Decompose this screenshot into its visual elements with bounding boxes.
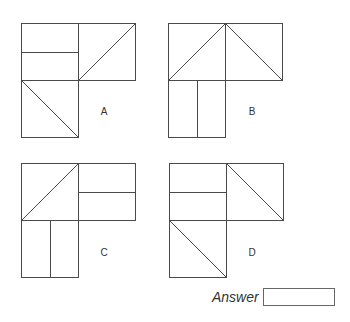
option-d-label: D <box>248 247 255 258</box>
option-a-figure <box>21 24 136 138</box>
cell-top-right <box>79 24 136 81</box>
cell-bottom-left <box>170 221 227 278</box>
diagonal-line <box>169 24 226 81</box>
diagonal-line <box>22 81 79 138</box>
option-c-figure <box>22 164 136 278</box>
cell-top-right <box>226 24 283 81</box>
diagonal-line <box>227 164 284 221</box>
option-b-figure <box>169 24 283 138</box>
option-a-label: A <box>101 106 108 117</box>
option-b-label: B <box>249 106 256 117</box>
answer-input[interactable] <box>263 288 335 306</box>
cell-bottom-left <box>169 80 226 138</box>
option-d-figure <box>169 164 284 278</box>
diagonal-line <box>170 221 227 278</box>
diagonal-line <box>79 24 136 81</box>
cell-bottom-left <box>22 81 79 138</box>
cell-top-right <box>78 164 136 221</box>
cell-top-left <box>21 24 79 81</box>
option-c-label: C <box>100 247 107 258</box>
diagonal-line <box>22 164 79 221</box>
diagonal-line <box>226 24 283 81</box>
cell-top-left <box>22 164 79 221</box>
answer-label: Answer <box>212 289 259 305</box>
cell-top-right <box>227 164 284 221</box>
figure-canvas <box>0 0 350 322</box>
cell-top-left <box>169 164 227 221</box>
cell-bottom-left <box>22 220 79 278</box>
cell-top-left <box>169 24 226 81</box>
